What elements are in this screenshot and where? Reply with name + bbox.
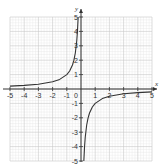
x-tick-label: -4 bbox=[21, 92, 27, 99]
y-tick-label: -5 bbox=[72, 158, 78, 165]
x-tick-label: -5 bbox=[7, 92, 13, 99]
y-tick-label: -3 bbox=[72, 129, 78, 136]
function-graph: -5-4-3-2-112345-5-4-3-2-112345 x y 0 bbox=[0, 0, 161, 167]
y-axis-arrow-icon bbox=[79, 9, 83, 13]
x-tick-label: 5 bbox=[150, 92, 154, 99]
x-tick-label: 1 bbox=[93, 92, 97, 99]
y-axis-label: y bbox=[74, 5, 79, 13]
y-tick-label: -2 bbox=[72, 114, 78, 121]
y-tick-label: 1 bbox=[74, 71, 78, 78]
x-tick-label: -3 bbox=[35, 92, 41, 99]
origin-label: 0 bbox=[74, 92, 78, 99]
x-tick-label: -1 bbox=[64, 92, 70, 99]
x-tick-label: 3 bbox=[122, 92, 126, 99]
y-tick-label: -4 bbox=[72, 143, 78, 150]
x-axis-label: x bbox=[154, 80, 159, 88]
x-tick-label: -2 bbox=[49, 92, 55, 99]
y-tick-label: -1 bbox=[72, 100, 78, 107]
